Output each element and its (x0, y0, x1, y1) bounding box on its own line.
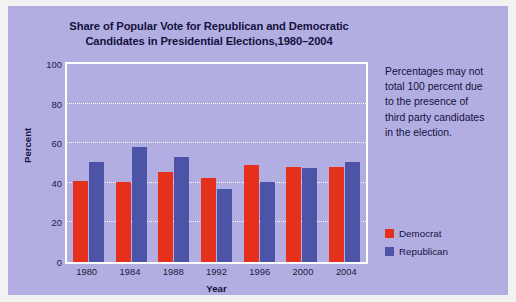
bar-group (152, 64, 195, 262)
bar-democrat-1980 (73, 181, 88, 262)
y-axis-tick-label: 100 (46, 59, 62, 70)
annotation-line: total 100 percent due (385, 79, 515, 94)
bar-republican-1980 (89, 162, 104, 262)
x-axis-tick-label: 1988 (152, 266, 195, 282)
chart-legend: DemocratRepublican (385, 228, 505, 264)
chart-title-line-1: Share of Popular Vote for Republican and… (69, 20, 348, 32)
bar-republican-2000 (302, 168, 317, 262)
bar-republican-1992 (217, 189, 232, 262)
y-axis-tick-label: 20 (52, 217, 62, 228)
y-axis-tick-label: 40 (52, 177, 62, 188)
x-axis-tick-label: 2004 (325, 266, 368, 282)
plot-area: 020406080100 (65, 62, 368, 264)
bar-democrat-1992 (201, 178, 216, 262)
legend-label: Democrat (399, 228, 441, 239)
bar-democrat-2000 (286, 167, 301, 262)
bar-groups (67, 64, 366, 262)
chart-title: Share of Popular Vote for Republican and… (30, 19, 388, 49)
y-axis-label: Percent (22, 128, 33, 163)
legend-item-democrat: Democrat (385, 228, 505, 239)
annotation-line: third party candidates (385, 110, 515, 125)
bar-democrat-2004 (329, 167, 344, 262)
bar-republican-2004 (345, 162, 360, 262)
annotation-line: in the election. (385, 125, 515, 140)
chart-panel: Share of Popular Vote for Republican and… (8, 6, 508, 295)
legend-swatch-republican-icon (385, 247, 394, 256)
legend-item-republican: Republican (385, 246, 505, 257)
chart-title-line-2: Candidates in Presidential Elections,198… (30, 34, 388, 49)
y-axis-tick-label: 0 (57, 257, 62, 268)
x-axis-ticks: 1980198419881992199620002004 (65, 266, 368, 282)
annotation-line: to the presence of (385, 94, 515, 109)
bar-republican-1988 (174, 157, 189, 262)
bar-democrat-1988 (158, 172, 173, 262)
plot-inner: 020406080100 (67, 64, 366, 262)
bar-democrat-1996 (244, 165, 259, 262)
bar-republican-1984 (132, 147, 147, 262)
legend-swatch-democrat-icon (385, 229, 394, 238)
bar-group (195, 64, 238, 262)
chart-annotation: Percentages may nottotal 100 percent due… (385, 64, 515, 140)
bar-democrat-1984 (116, 182, 131, 262)
bar-group (110, 64, 153, 262)
bar-group (281, 64, 324, 262)
legend-label: Republican (399, 246, 448, 257)
x-axis-tick-label: 1984 (108, 266, 151, 282)
y-axis-tick-label: 80 (52, 98, 62, 109)
bar-republican-1996 (260, 182, 275, 262)
bar-group (238, 64, 281, 262)
x-axis-label: Year (65, 283, 368, 294)
bar-group (67, 64, 110, 262)
x-axis-tick-label: 1980 (65, 266, 108, 282)
x-axis-tick-label: 1996 (238, 266, 281, 282)
chart-screenshot: Share of Popular Vote for Republican and… (0, 0, 516, 302)
x-axis-tick-label: 2000 (281, 266, 324, 282)
bar-group (323, 64, 366, 262)
annotation-line: Percentages may not (385, 64, 515, 79)
x-axis-tick-label: 1992 (195, 266, 238, 282)
y-axis-tick-label: 60 (52, 138, 62, 149)
